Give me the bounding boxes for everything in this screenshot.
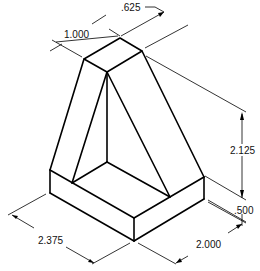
dim-label-base-thickness: .500 <box>234 205 254 216</box>
dimension-base-thickness: .500 <box>208 200 254 226</box>
dim-label-base-length: 2.375 <box>38 235 63 246</box>
base-top-left <box>50 170 134 218</box>
dim-label-top-depth: 1.000 <box>64 29 89 40</box>
base-bottom-left <box>50 193 134 241</box>
isometric-drawing: .625 1.000 2.125 .500 2.375 <box>0 0 260 271</box>
inner-left-slope <box>72 72 107 183</box>
upright-left-edge <box>50 59 84 170</box>
dim-label-base-width: 2.000 <box>196 239 221 250</box>
base-bottom-right <box>134 199 204 241</box>
top-face <box>84 38 142 72</box>
dimension-base-width: 2.000 <box>138 202 246 264</box>
upright-right-edge <box>142 51 204 177</box>
dim-label-height: 2.125 <box>230 145 255 156</box>
inner-right-slope <box>107 72 170 197</box>
dim-label-top-width: .625 <box>121 2 141 13</box>
dimension-top-width: .625 <box>109 2 188 48</box>
dimension-top-depth: 1.000 <box>50 15 118 57</box>
object-outline <box>50 38 204 241</box>
